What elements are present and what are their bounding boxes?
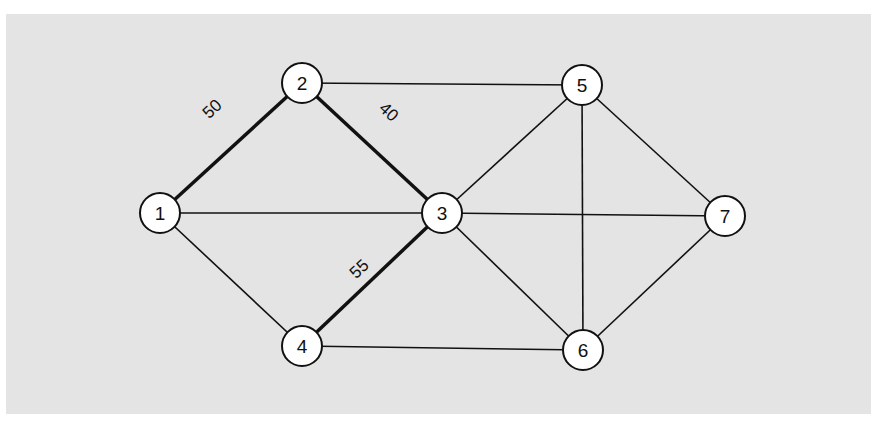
- edge-4-6: [302, 346, 583, 350]
- node-label-3: 3: [437, 203, 448, 224]
- edge-3-7: [442, 213, 725, 216]
- edge-label-2-3: 40: [375, 99, 402, 126]
- edge-2-5: [302, 83, 582, 85]
- edge-2-3-bold: [302, 83, 442, 213]
- node-label-2: 2: [297, 73, 308, 94]
- edge-3-4-bold: [302, 213, 442, 346]
- node-label-1: 1: [155, 203, 166, 224]
- node-label-4: 4: [297, 336, 308, 357]
- edge-label-3-4: 55: [346, 256, 373, 283]
- node-label-5: 5: [577, 75, 588, 96]
- node-label-6: 6: [578, 340, 589, 361]
- edge-3-5: [442, 85, 582, 213]
- edge-5-6: [582, 85, 583, 350]
- edge-3-6: [442, 213, 583, 350]
- edge-label-1-2: 50: [199, 96, 226, 123]
- edge-1-2-bold: [160, 83, 302, 213]
- edge-6-7: [583, 216, 725, 350]
- network-graph: 50 40 55 1 2 3 4 5 6 7: [0, 0, 890, 421]
- edge-5-7: [582, 85, 725, 216]
- node-label-7: 7: [720, 206, 731, 227]
- edge-1-4: [160, 213, 302, 346]
